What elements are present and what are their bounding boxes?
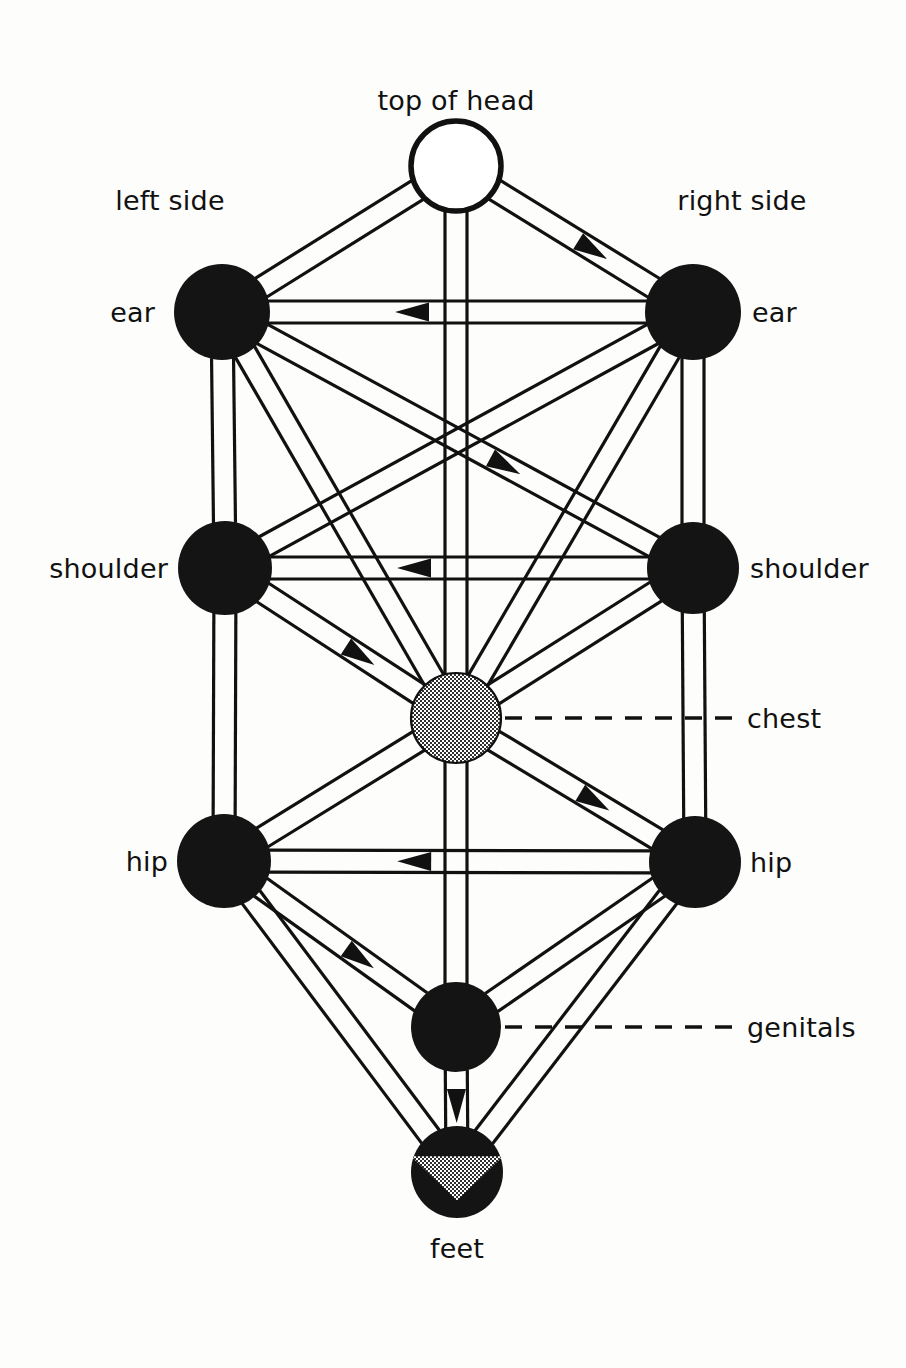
edge-hip_l-to-feet [242,890,439,1143]
edge-rail [235,357,425,686]
node-label-shoulder_r: shoulder [750,553,869,584]
side-label-right: right side [677,185,806,216]
edge-head-to-ear_r [487,179,660,297]
node-shoulder_r[interactable] [647,522,739,614]
node-circle[interactable] [411,121,501,211]
node-label-feet: feet [430,1233,484,1264]
node-hip_r[interactable] [649,816,741,908]
edge-rail [486,582,649,685]
edge-shoulder_r-to-hip_r [682,612,705,818]
node-label-hip_r: hip [750,847,792,878]
edge-rail [498,179,659,278]
node-circle[interactable] [649,816,741,908]
edge-rail [487,357,679,686]
edge-rail [267,878,427,993]
node-shoulder_l[interactable] [178,521,272,615]
edge-chest-to-hip_l [257,731,426,847]
edge-rail [485,878,652,994]
edge-rail [213,613,214,816]
node-head[interactable] [411,121,501,211]
edge-rail [267,198,425,297]
edge-ear_r-to-shoulder_r [682,358,704,524]
node-label-genitals: genitals [747,1012,856,1043]
node-chest[interactable] [411,673,501,763]
edge-hip_r-to-hip_l [269,850,651,873]
node-ear_r[interactable] [645,264,741,360]
node-label-chest: chest [747,703,821,734]
node-circle[interactable] [411,673,501,763]
node-label-ear_l: ear [110,297,156,328]
node-feet[interactable] [411,1126,503,1218]
edge-rail [257,602,414,704]
diagram-canvas: top of headearearshouldershoulderchesthi… [0,0,906,1368]
edge-rail [499,731,663,830]
edge-rail [487,750,651,849]
node-hip_l[interactable] [177,814,271,908]
edge-rail [475,890,659,1130]
edge-head-to-chest [445,209,467,675]
node-layer [174,121,741,1218]
edge-arrowhead [341,941,374,969]
edge-head-to-ear_l [255,179,425,297]
edge-shoulder_r-to-shoulder_l [270,557,649,579]
edge-rail [255,346,445,675]
edge-rail [682,612,683,818]
edge-rail [255,179,413,278]
edge-chest-to-hip_r [487,731,663,849]
node-circle[interactable] [174,264,270,360]
node-label-head: top of head [377,85,534,116]
body-connectivity-diagram: top of headearearshouldershoulderchesthi… [0,0,906,1368]
node-label-shoulder_l: shoulder [49,553,168,584]
edge-rail [259,324,647,536]
node-genitals[interactable] [411,982,501,1072]
edge-shoulder_l-to-hip_l [213,613,236,816]
edge-rail [242,904,422,1144]
edge-rail [212,358,214,523]
edge-hip_r-to-genitals [485,878,665,1012]
edge-arrowhead [395,303,429,322]
edge-rail [257,731,414,828]
edge-rail [704,612,705,818]
edge-rail [269,850,651,851]
node-ear_l[interactable] [174,264,270,360]
edge-ear_r-to-shoulder_l [259,324,658,556]
edge-rail [235,613,236,816]
node-label-ear_r: ear [752,297,798,328]
edge-arrowhead [397,559,431,578]
node-circle[interactable] [645,264,741,360]
node-circle[interactable] [177,814,271,908]
edge-rail [487,198,648,297]
edge-hip_l-to-genitals [254,878,427,1011]
edge-arrowhead [447,1089,466,1123]
edge-rail [269,872,651,873]
edge-hip_r-to-feet [475,890,677,1144]
node-circle[interactable] [411,982,501,1072]
edge-rail [268,750,425,847]
edge-ear_l-to-shoulder_l [212,358,236,523]
edge-rail [268,324,660,537]
edge-rail [493,904,677,1144]
node-circle[interactable] [178,521,272,615]
node-circle[interactable] [647,522,739,614]
node-label-hip_l: hip [126,846,168,877]
edge-rail [498,601,661,704]
side-label-left: left side [115,185,224,216]
edge-rail [234,358,236,523]
edge-ear_l-to-shoulder_r [257,324,659,556]
edge-genitals-to-feet [445,1070,467,1128]
edge-rail [269,583,426,685]
edge-arrowhead [397,852,431,871]
edge-ear_r-to-ear_l [268,301,647,323]
